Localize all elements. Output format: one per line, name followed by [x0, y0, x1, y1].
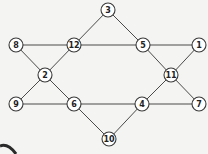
node-7: 7 — [192, 97, 206, 111]
node-8: 8 — [9, 38, 23, 52]
node-label: 5 — [140, 41, 146, 50]
node-label: 2 — [42, 71, 48, 80]
node-label: 8 — [13, 41, 19, 50]
node-label: 6 — [71, 100, 77, 109]
node-5: 5 — [136, 38, 150, 52]
node-3: 3 — [101, 3, 115, 17]
node-12: 12 — [67, 38, 81, 52]
node-label: 4 — [139, 100, 145, 109]
graph-diagram: 381251211964710 — [0, 0, 208, 154]
node-label: 3 — [105, 6, 111, 15]
node-label: 11 — [165, 71, 177, 80]
node-label: 7 — [196, 100, 202, 109]
graph-svg: 381251211964710 — [0, 0, 208, 154]
node-9: 9 — [9, 97, 23, 111]
node-11: 11 — [164, 68, 178, 82]
node-6: 6 — [67, 97, 81, 111]
node-2: 2 — [38, 68, 52, 82]
node-label: 9 — [13, 100, 19, 109]
node-4: 4 — [135, 97, 149, 111]
node-label: 10 — [103, 135, 115, 144]
node-1: 1 — [192, 38, 206, 52]
node-label: 12 — [68, 41, 79, 50]
node-label: 1 — [196, 41, 202, 50]
node-layer: 381251211964710 — [9, 3, 206, 146]
scan-artifact-curve — [0, 145, 16, 154]
node-10: 10 — [102, 132, 116, 146]
